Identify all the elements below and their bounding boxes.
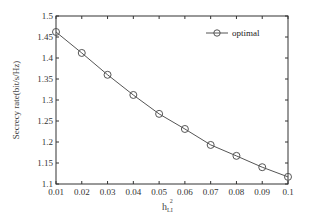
legend: optimal [206, 28, 260, 38]
plot-area-box [56, 16, 288, 184]
series-markers-optimal [53, 28, 292, 180]
x-tick-label: 0.08 [229, 187, 245, 197]
secrecy-rate-chart: 1.11.151.21.251.31.351.41.451.5 0.010.02… [0, 0, 309, 222]
x-tick-label: 0.09 [254, 187, 270, 197]
x-axis-label-sub: LI [167, 207, 173, 213]
y-tick-label: 1.4 [42, 53, 54, 63]
x-tick-label: 0.03 [100, 187, 116, 197]
x-tick-label: 0.04 [125, 187, 141, 197]
x-tick-label: 0.1 [282, 187, 293, 197]
y-tick-label: 1.2 [42, 137, 53, 147]
legend-label-optimal: optimal [232, 28, 260, 38]
y-axis-label: Secrecy rate(bit/s/Hz) [11, 61, 21, 140]
series-line-optimal [56, 32, 288, 177]
y-tick-label: 1.3 [42, 95, 54, 105]
y-tick-label: 1.45 [37, 32, 53, 42]
x-tick-label: 0.02 [74, 187, 90, 197]
x-axis-ticks: 0.010.020.030.040.050.060.070.080.090.1 [48, 16, 294, 197]
y-tick-label: 1.15 [37, 158, 53, 168]
x-tick-label: 0.06 [177, 187, 193, 197]
y-tick-label: 1.25 [37, 116, 53, 126]
x-tick-label: 0.05 [151, 187, 167, 197]
y-tick-label: 1.35 [37, 74, 53, 84]
y-tick-label: 1.5 [42, 11, 54, 21]
x-tick-label: 0.01 [48, 187, 64, 197]
x-axis-label-sup: 2 [170, 198, 173, 204]
x-axis-label: hLI2 [162, 198, 173, 213]
x-tick-label: 0.07 [203, 187, 219, 197]
